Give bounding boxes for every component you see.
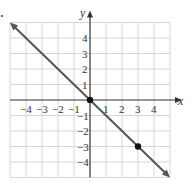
svg-text:−3: −3 [77,141,89,153]
svg-text:4: 4 [82,32,88,44]
svg-text:−4: −4 [77,156,89,168]
svg-text:3: 3 [82,48,88,60]
stray-dot [1,15,3,17]
svg-text:−4: −4 [20,103,32,115]
svg-text:−1: −1 [77,110,89,122]
svg-text:−2: −2 [52,103,64,115]
svg-text:2: 2 [82,63,88,75]
y-axis-label: y [79,6,86,20]
x-axis-label: x [177,94,184,108]
axes [10,11,182,178]
svg-text:3: 3 [135,103,141,115]
svg-text:1: 1 [82,79,88,91]
svg-text:−3: −3 [36,103,48,115]
svg-text:−2: −2 [77,125,89,137]
svg-text:2: 2 [119,103,125,115]
svg-text:4: 4 [151,103,157,115]
coordinate-plane: −4−3−2−112344321−1−2−3−4 x y [0,0,192,190]
